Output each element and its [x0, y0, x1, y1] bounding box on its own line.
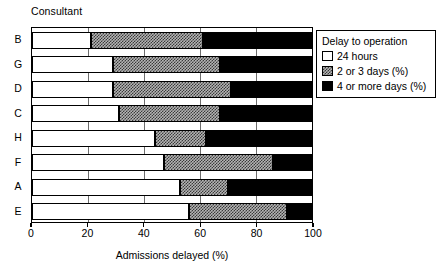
x-axis-tick-label: 80: [251, 227, 263, 239]
bars-layer: [32, 28, 312, 222]
x-axis-tick-label: 40: [138, 227, 150, 239]
bar-row: [32, 203, 312, 220]
x-axis-title: Admissions delayed (%): [31, 249, 313, 261]
y-axis-tick-label: B: [8, 33, 28, 45]
bar-segment: [155, 130, 205, 147]
legend-swatch-icon: [322, 51, 333, 61]
bar-segment: [32, 179, 180, 196]
bar-row: [32, 56, 312, 73]
bar-segment: [32, 32, 91, 49]
legend-item[interactable]: 2 or 3 days (%): [322, 65, 430, 77]
bar-segment: [119, 105, 220, 122]
y-axis-tick-label: E: [8, 205, 28, 217]
y-axis-title: Consultant: [31, 5, 82, 17]
legend-swatch-icon: [322, 66, 333, 76]
bar-segment: [203, 32, 312, 49]
legend-label: 2 or 3 days (%): [337, 65, 408, 77]
bar-row: [32, 81, 312, 98]
x-axis-tick-label: 0: [28, 227, 34, 239]
legend-items: 24 hours2 or 3 days (%)4 or more days (%…: [322, 50, 430, 92]
y-axis-tick-label: H: [8, 131, 28, 143]
bar-segment: [220, 56, 312, 73]
bar-segment: [287, 203, 312, 220]
bar-row: [32, 105, 312, 122]
bar-segment: [32, 130, 155, 147]
bar-segment: [206, 130, 312, 147]
bar-segment: [113, 81, 231, 98]
y-axis-tick-label: F: [8, 156, 28, 168]
bar-segment: [220, 105, 312, 122]
bar-segment: [32, 81, 113, 98]
x-axis-tick-label: 60: [194, 227, 206, 239]
bar-row: [32, 130, 312, 147]
legend-item[interactable]: 4 or more days (%): [322, 80, 430, 92]
bar-segment: [32, 154, 164, 171]
legend: Delay to operation 24 hours2 or 3 days (…: [316, 30, 436, 98]
bar-row: [32, 154, 312, 171]
legend-label: 24 hours: [337, 50, 378, 62]
bar-segment: [231, 81, 312, 98]
legend-label: 4 or more days (%): [337, 80, 426, 92]
bar-row: [32, 32, 312, 49]
bar-segment: [32, 56, 113, 73]
bar-segment: [273, 154, 312, 171]
x-axis-tick-label: 20: [82, 227, 94, 239]
y-axis-tick-label: D: [8, 82, 28, 94]
y-axis-tick-label: C: [8, 107, 28, 119]
bar-row: [32, 179, 312, 196]
bar-segment: [164, 154, 273, 171]
legend-title: Delay to operation: [322, 35, 430, 47]
legend-item[interactable]: 24 hours: [322, 50, 430, 62]
y-axis-tick-label: G: [8, 58, 28, 70]
plot-area: [31, 27, 313, 223]
legend-swatch-icon: [322, 81, 333, 91]
chart-figure: Consultant BGDCHFAE 020406080100 Admissi…: [0, 0, 441, 275]
bar-segment: [32, 203, 189, 220]
y-axis-tick-label: A: [8, 180, 28, 192]
bar-segment: [180, 179, 228, 196]
bar-segment: [91, 32, 203, 49]
bar-segment: [228, 179, 312, 196]
bar-segment: [189, 203, 287, 220]
x-axis-tick-label: 100: [304, 227, 322, 239]
bar-segment: [113, 56, 219, 73]
bar-segment: [32, 105, 119, 122]
